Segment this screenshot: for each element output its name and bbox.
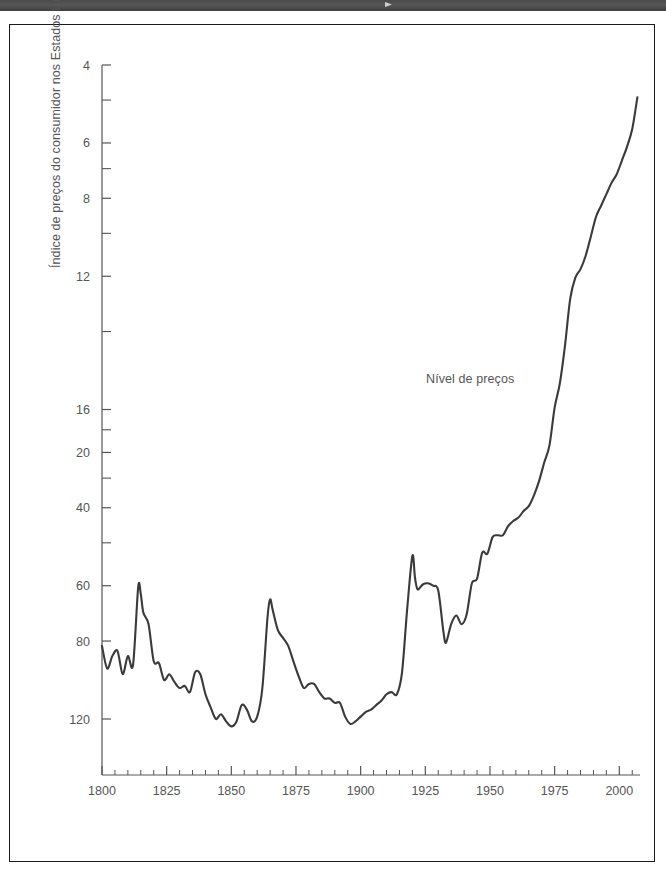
y-tick-label: 80 [76, 635, 90, 649]
axis-layer: 1208060402016128641800182518501875190019… [69, 59, 640, 799]
y-tick-label: 20 [76, 446, 90, 460]
y-tick-label: 40 [76, 501, 90, 515]
price-level-line [102, 97, 637, 726]
y-tick-label: 6 [83, 136, 90, 150]
y-tick-label: 8 [83, 192, 90, 206]
series-annotation-label: Nível de preços [426, 372, 514, 386]
y-tick-label: 120 [69, 713, 90, 727]
x-tick-label: 1825 [153, 784, 181, 798]
chart-canvas: 1208060402016128641800182518501875190019… [0, 0, 666, 873]
x-tick-label: 1950 [476, 784, 504, 798]
y-tick-label: 12 [76, 270, 90, 284]
series-layer [102, 97, 637, 726]
x-tick-label: 1800 [88, 784, 116, 798]
x-tick-label: 1975 [541, 784, 569, 798]
y-axis-title: Índice de preços do consumidor nos Estad… [49, 0, 71, 268]
x-tick-label: 1925 [411, 784, 439, 798]
x-tick-label: 1875 [282, 784, 310, 798]
y-tick-label: 16 [76, 403, 90, 417]
x-tick-label: 1900 [347, 784, 375, 798]
x-tick-label: 1850 [217, 784, 245, 798]
chart-svg: 1208060402016128641800182518501875190019… [0, 0, 666, 873]
x-tick-label: 2000 [605, 784, 633, 798]
y-tick-label: 60 [76, 579, 90, 593]
y-tick-label: 4 [83, 59, 90, 73]
figure-root: 1208060402016128641800182518501875190019… [0, 0, 666, 873]
